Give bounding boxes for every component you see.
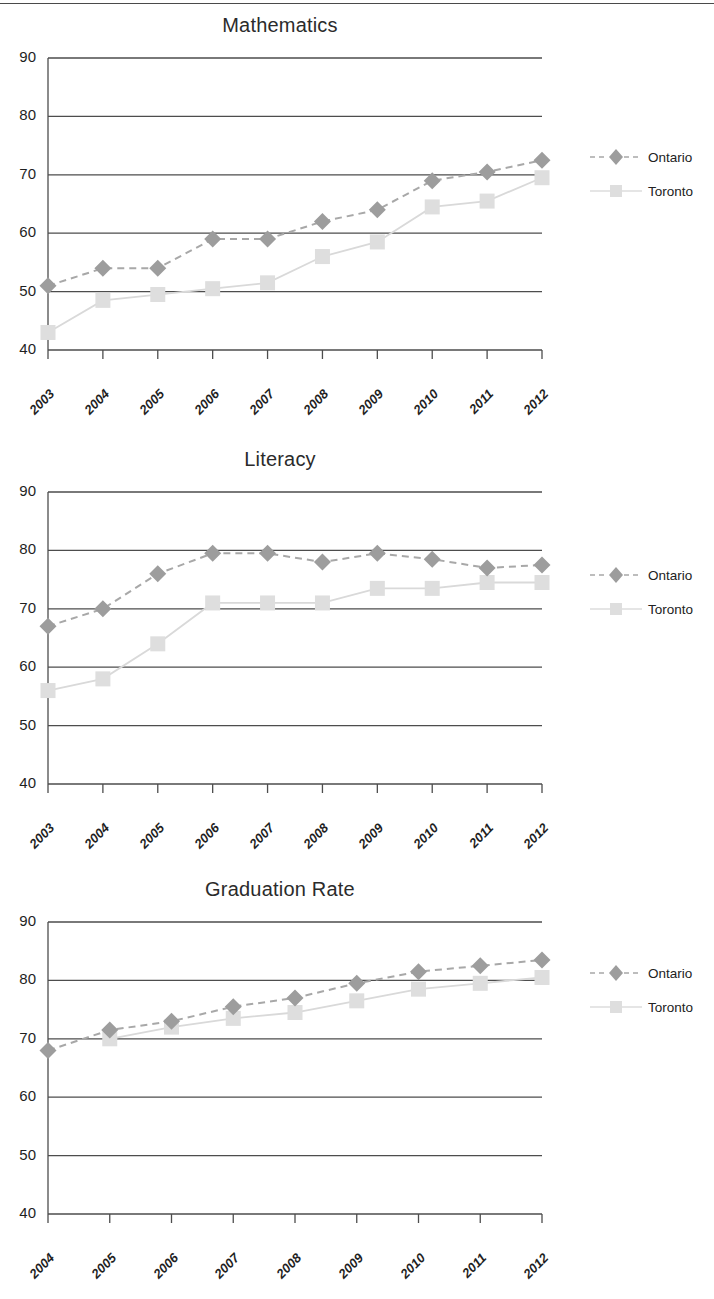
y-axis-tick-label: 80 xyxy=(4,106,36,123)
data-point-ontario[interactable] xyxy=(40,618,57,635)
data-point-ontario[interactable] xyxy=(424,551,441,568)
x-axis-tick-label: 2012 xyxy=(512,1250,551,1289)
legend-item-ontario[interactable]: Ontario xyxy=(588,140,714,174)
x-axis-tick-label: 2007 xyxy=(238,386,277,425)
plot-svg-literacy xyxy=(0,484,560,809)
x-axis-tick-label: 2009 xyxy=(327,1250,366,1289)
y-axis-tick-label: 90 xyxy=(4,48,36,65)
data-point-ontario[interactable] xyxy=(534,951,551,968)
plot-svg-graduation-rate xyxy=(0,914,560,1239)
series-line-ontario xyxy=(48,553,542,626)
x-axis-labels-graduation-rate: 200420052006200720082009201020112012 xyxy=(0,1244,560,1299)
data-point-toronto[interactable] xyxy=(288,1005,303,1020)
y-axis-tick-label: 50 xyxy=(4,282,36,299)
x-axis-tick-label: 2011 xyxy=(451,1250,490,1289)
x-axis-tick-label: 2010 xyxy=(403,386,442,425)
y-axis-tick-label: 50 xyxy=(4,1146,36,1163)
data-point-toronto[interactable] xyxy=(370,234,385,249)
y-axis-tick-label: 70 xyxy=(4,1029,36,1046)
x-axis-tick-label: 2003 xyxy=(18,820,57,859)
data-point-ontario[interactable] xyxy=(40,1042,57,1059)
data-point-toronto[interactable] xyxy=(425,199,440,214)
x-axis-tick-label: 2004 xyxy=(18,1250,57,1289)
data-point-toronto[interactable] xyxy=(480,194,495,209)
y-axis-tick-label: 40 xyxy=(4,774,36,791)
x-axis-labels-mathematics: 2003200420052006200720082009201020112012 xyxy=(0,380,560,440)
data-point-ontario[interactable] xyxy=(348,975,365,992)
data-point-toronto[interactable] xyxy=(349,993,364,1008)
x-axis-tick-label: 2011 xyxy=(458,386,497,425)
legend-key-ontario-diamond-icon xyxy=(588,564,644,586)
data-point-toronto[interactable] xyxy=(150,287,165,302)
data-point-toronto[interactable] xyxy=(41,683,56,698)
data-point-toronto[interactable] xyxy=(480,575,495,590)
data-point-toronto[interactable] xyxy=(205,595,220,610)
data-point-toronto[interactable] xyxy=(315,249,330,264)
legend-item-ontario[interactable]: Ontario xyxy=(588,956,714,990)
data-point-ontario[interactable] xyxy=(149,565,166,582)
legend-literacy: Ontario Toronto xyxy=(588,558,714,626)
data-point-ontario[interactable] xyxy=(204,545,221,562)
legend-item-toronto[interactable]: Toronto xyxy=(588,990,714,1024)
x-axis-tick-label: 2011 xyxy=(458,820,497,859)
x-axis-tick-label: 2004 xyxy=(73,820,112,859)
x-axis-tick-label: 2010 xyxy=(389,1250,428,1289)
data-point-ontario[interactable] xyxy=(314,554,331,571)
data-point-toronto[interactable] xyxy=(315,595,330,610)
x-axis-tick-label: 2009 xyxy=(348,386,387,425)
data-point-ontario[interactable] xyxy=(534,557,551,574)
x-axis-tick-label: 2008 xyxy=(265,1250,304,1289)
y-axis-tick-label: 90 xyxy=(4,912,36,929)
data-point-ontario[interactable] xyxy=(259,545,276,562)
x-axis-tick-label: 2012 xyxy=(512,386,551,425)
y-axis-tick-label: 80 xyxy=(4,970,36,987)
data-point-toronto[interactable] xyxy=(41,325,56,340)
data-point-ontario[interactable] xyxy=(369,201,386,218)
plot-area-literacy xyxy=(0,484,560,809)
chart-literacy: Literacy 2003200420052006200720082009201… xyxy=(0,448,714,870)
data-point-toronto[interactable] xyxy=(260,275,275,290)
data-point-ontario[interactable] xyxy=(479,559,496,576)
y-axis-tick-label: 70 xyxy=(4,599,36,616)
data-point-ontario[interactable] xyxy=(314,213,331,230)
legend-item-ontario[interactable]: Ontario xyxy=(588,558,714,592)
data-point-toronto[interactable] xyxy=(473,976,488,991)
data-point-ontario[interactable] xyxy=(149,260,166,277)
data-point-ontario[interactable] xyxy=(472,957,489,974)
data-point-toronto[interactable] xyxy=(411,982,426,997)
data-point-ontario[interactable] xyxy=(287,989,304,1006)
x-axis-tick-label: 2004 xyxy=(73,386,112,425)
data-point-toronto[interactable] xyxy=(260,595,275,610)
x-axis-tick-label: 2007 xyxy=(238,820,277,859)
series-line-toronto xyxy=(48,583,542,691)
data-point-toronto[interactable] xyxy=(370,581,385,596)
y-axis-tick-label: 40 xyxy=(4,1204,36,1221)
legend-item-toronto[interactable]: Toronto xyxy=(588,174,714,208)
data-point-toronto[interactable] xyxy=(425,581,440,596)
data-point-ontario[interactable] xyxy=(534,152,551,169)
legend-label-toronto: Toronto xyxy=(644,1000,693,1015)
x-axis-tick-label: 2008 xyxy=(293,386,332,425)
data-point-ontario[interactable] xyxy=(479,163,496,180)
legend-label-ontario: Ontario xyxy=(644,150,692,165)
x-axis-tick-label: 2005 xyxy=(128,386,167,425)
data-point-toronto[interactable] xyxy=(95,293,110,308)
data-point-toronto[interactable] xyxy=(95,671,110,686)
legend-label-ontario: Ontario xyxy=(644,568,692,583)
legend-item-toronto[interactable]: Toronto xyxy=(588,592,714,626)
data-point-toronto[interactable] xyxy=(535,170,550,185)
data-point-toronto[interactable] xyxy=(535,970,550,985)
legend-label-toronto: Toronto xyxy=(644,602,693,617)
y-axis-tick-label: 80 xyxy=(4,540,36,557)
x-axis-tick-label: 2009 xyxy=(348,820,387,859)
x-axis-tick-label: 2003 xyxy=(18,386,57,425)
y-axis-tick-label: 60 xyxy=(4,223,36,240)
data-point-ontario[interactable] xyxy=(94,260,111,277)
data-point-ontario[interactable] xyxy=(369,545,386,562)
data-point-ontario[interactable] xyxy=(94,600,111,617)
data-point-toronto[interactable] xyxy=(150,636,165,651)
data-point-toronto[interactable] xyxy=(205,281,220,296)
chart-graduation-rate: Graduation Rate 200420052006200720082009… xyxy=(0,878,714,1299)
data-point-ontario[interactable] xyxy=(410,963,427,980)
data-point-toronto[interactable] xyxy=(535,575,550,590)
